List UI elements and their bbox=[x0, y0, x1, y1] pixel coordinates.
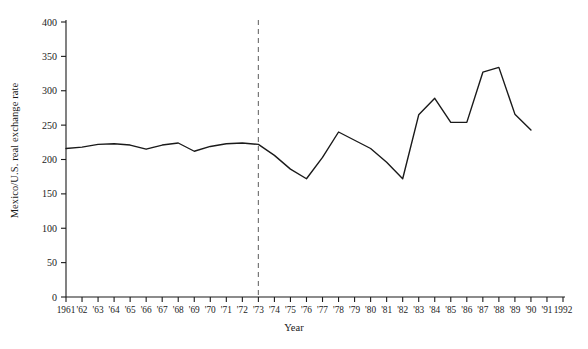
x-axis-tick-label: '71 bbox=[221, 305, 232, 315]
x-axis-tick-label: '84 bbox=[429, 305, 440, 315]
y-axis-tick-label: 200 bbox=[42, 154, 57, 165]
x-axis-tick-label: '63 bbox=[93, 305, 104, 315]
x-axis-tick-label: '79 bbox=[349, 305, 360, 315]
x-axis-tick-label: 1992 bbox=[554, 305, 573, 315]
x-axis-tick-label: 1961 bbox=[57, 305, 76, 315]
y-axis-tick-label: 400 bbox=[42, 17, 57, 28]
x-axis-tick-label: '72 bbox=[237, 305, 248, 315]
x-axis-tick-label: '67 bbox=[157, 305, 168, 315]
x-axis-tick-label: '83 bbox=[413, 305, 424, 315]
x-axis-tick-label: '69 bbox=[189, 305, 200, 315]
x-axis-tick-label: '74 bbox=[269, 305, 280, 315]
data-series-line-0 bbox=[66, 67, 531, 178]
x-axis-label: Year bbox=[0, 322, 588, 333]
x-axis-tick-label: '75 bbox=[285, 305, 296, 315]
x-axis-tick-label: '91 bbox=[541, 305, 552, 315]
chart-figure: 0501001502002503003504001961'62'63'64'65… bbox=[0, 0, 588, 349]
x-axis-tick-label: '62 bbox=[77, 305, 88, 315]
x-axis-tick-label: '66 bbox=[141, 305, 152, 315]
y-axis-tick-label: 150 bbox=[42, 188, 57, 199]
x-axis-tick-label: '68 bbox=[173, 305, 184, 315]
x-axis-tick-label: '65 bbox=[125, 305, 136, 315]
y-axis-tick-label: 300 bbox=[42, 85, 57, 96]
y-axis-tick-label: 250 bbox=[42, 120, 57, 131]
y-axis-tick-label: 100 bbox=[42, 223, 57, 234]
x-axis-tick-label: '64 bbox=[109, 305, 120, 315]
x-axis-tick-label: '77 bbox=[317, 305, 328, 315]
x-axis-tick-label: '89 bbox=[509, 305, 520, 315]
x-axis-tick-label: '78 bbox=[333, 305, 344, 315]
x-axis-tick-label: '85 bbox=[445, 305, 456, 315]
x-axis-tick-label: '73 bbox=[253, 305, 264, 315]
x-axis-tick-label: '76 bbox=[301, 305, 312, 315]
x-axis-tick-label: '80 bbox=[365, 305, 376, 315]
x-axis-tick-label: '86 bbox=[461, 305, 472, 315]
x-axis-tick-label: '82 bbox=[397, 305, 408, 315]
x-axis-tick-label: '90 bbox=[525, 305, 536, 315]
y-axis-tick-label: 0 bbox=[52, 292, 57, 303]
y-axis-tick-label: 50 bbox=[47, 257, 57, 268]
y-axis-tick-label: 350 bbox=[42, 51, 57, 62]
x-axis-tick-label: '81 bbox=[381, 305, 392, 315]
x-axis-tick-label: '70 bbox=[205, 305, 216, 315]
x-axis-tick-label: '88 bbox=[493, 305, 504, 315]
x-axis-tick-label: '87 bbox=[477, 305, 488, 315]
line-chart-plot: 0501001502002503003504001961'62'63'64'65… bbox=[0, 0, 588, 349]
